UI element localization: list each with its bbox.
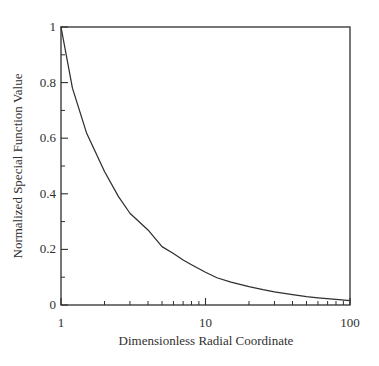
y-axis-title: Normalized Special Function Value [10, 73, 25, 258]
figure: 11010000.20.40.60.81 Dimensionless Radia… [0, 0, 379, 366]
x-axis-title: Dimensionless Radial Coordinate [119, 333, 294, 348]
ticks-layer [61, 27, 350, 305]
y-tick-label-0.8: 0.8 [40, 75, 56, 90]
tick-label-layer: 11010000.20.40.60.81 [40, 19, 360, 330]
chart: 11010000.20.40.60.81 Dimensionless Radia… [0, 0, 379, 366]
x-tick-label-10: 10 [199, 315, 212, 330]
x-tick-label-100: 100 [340, 315, 360, 330]
y-tick-label-0.2: 0.2 [40, 241, 56, 256]
curve-layer [61, 27, 350, 301]
y-tick-label-0: 0 [50, 297, 57, 312]
y-tick-label-0.6: 0.6 [40, 130, 57, 145]
x-tick-label-1: 1 [58, 315, 65, 330]
plot-border [61, 27, 350, 305]
y-tick-label-1: 1 [50, 19, 57, 34]
curve-normalized-special-function [61, 27, 350, 301]
y-tick-label-0.4: 0.4 [40, 186, 57, 201]
